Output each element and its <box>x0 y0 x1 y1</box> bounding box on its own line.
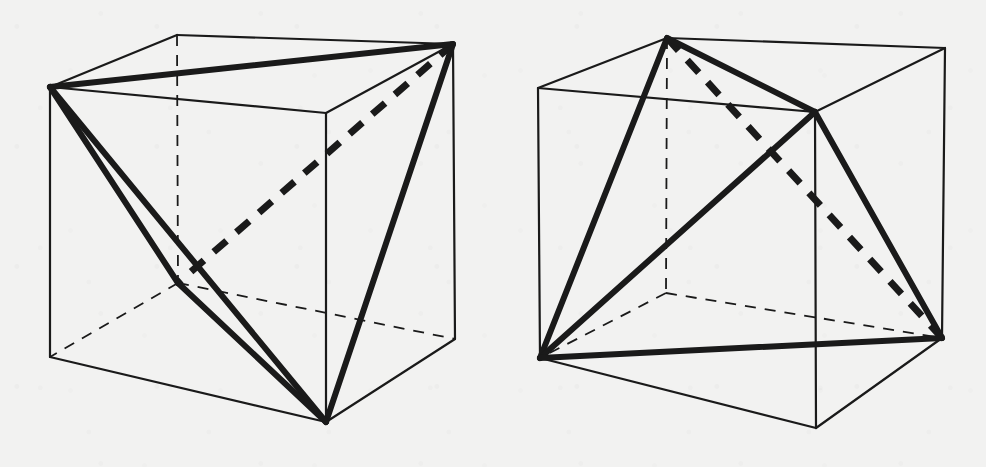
figure-board <box>0 0 986 467</box>
right-figure <box>538 38 945 428</box>
tetra-edge-back_top_left-front_bottom_left <box>540 38 667 358</box>
tetrahedron-right <box>540 38 942 358</box>
cube-edge-front_bottom_right-front_bottom_left <box>50 357 326 422</box>
tetrahedron-left <box>50 44 453 422</box>
tetra-edge-back_top_right-front_bottom_right <box>326 44 453 422</box>
tetra-hidden-edge-back_top_left-back_bottom_right <box>667 38 942 338</box>
cube-edge-back_bottom_right-front_bottom_right <box>326 339 455 422</box>
tetra-edge-front_top_left-front_bottom_right <box>50 87 326 422</box>
cube-hidden-edge-back_top_left-back_bottom_left <box>666 38 667 293</box>
cube-edge-back_top_right-back_bottom_right <box>942 48 945 338</box>
cube-edge-back_top_right-front_top_right <box>815 48 945 112</box>
cube-hidden-edge-back_bottom_left-front_bottom_left <box>50 283 178 357</box>
left-figure <box>50 35 455 422</box>
cube-hidden-edge-back_bottom_left-back_bottom_right <box>666 293 942 338</box>
tetra-edge-front_bottom_left-back_bottom_right <box>540 338 942 358</box>
cube-edge-front_top_right-front_bottom_right <box>815 112 816 428</box>
cube-edge-front_bottom_right-front_bottom_left <box>540 358 816 428</box>
tetrahedra-in-cubes-diagram <box>0 0 986 467</box>
cube-edge-back_top_left-back_top_right <box>177 35 453 44</box>
tetra-edge-back_bottom_left-front_bottom_right <box>178 283 326 422</box>
tetra-edge-front_top_right-front_bottom_left <box>540 112 815 358</box>
cube-edge-back_bottom_right-front_bottom_right <box>816 338 942 428</box>
cube-edge-front_bottom_left-front_top_left <box>538 88 540 358</box>
cube-edge-back_top_left-back_top_right <box>667 38 945 48</box>
tetra-edge-front_top_left-back_top_right <box>50 44 453 87</box>
tetra-edge-front_top_left-back_bottom_left <box>50 87 178 283</box>
cube-edge-back_top_right-back_bottom_right <box>453 44 455 339</box>
cube-edge-front_top_left-front_top_right <box>50 87 326 113</box>
